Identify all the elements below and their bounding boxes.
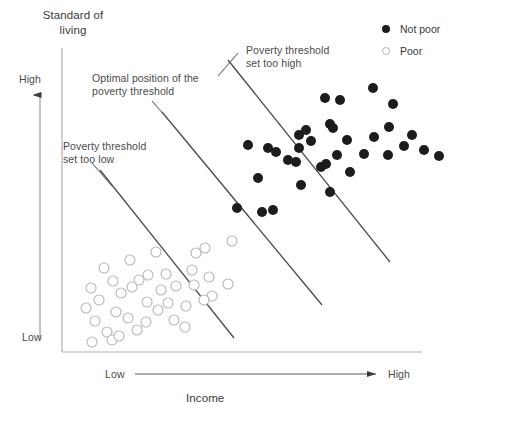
data-point-not-poor [384, 122, 394, 132]
data-point-not-poor [243, 140, 253, 150]
data-point-not-poor [407, 130, 417, 140]
data-point-not-poor [383, 150, 393, 160]
data-point-poor [189, 280, 199, 290]
data-point-not-poor [296, 180, 306, 190]
legend-label-not-poor: Not poor [400, 23, 440, 35]
data-point-not-poor [294, 130, 304, 140]
data-point-not-poor [325, 187, 335, 197]
data-point-poor [153, 305, 163, 315]
data-point-poor [116, 288, 126, 298]
data-point-poor [223, 279, 233, 289]
data-point-poor [142, 297, 152, 307]
data-point-poor [227, 236, 237, 246]
data-point-poor [180, 322, 190, 332]
data-point-poor [199, 295, 209, 305]
y-axis-high-label: High [19, 73, 41, 86]
data-point-poor [200, 243, 210, 253]
data-point-not-poor [232, 203, 242, 213]
data-point-not-poor [257, 207, 267, 217]
data-point-poor [132, 325, 142, 335]
data-point-not-poor [271, 147, 281, 157]
data-point-poor [111, 307, 121, 317]
filled-circle-icon [379, 25, 393, 33]
data-point-not-poor [434, 151, 444, 161]
data-points-poor [81, 236, 237, 347]
data-point-poor [114, 331, 124, 341]
open-circle-icon [379, 47, 393, 55]
data-point-not-poor [291, 157, 301, 167]
data-point-poor [141, 317, 151, 327]
y-axis-title: Standard of living [18, 8, 128, 38]
data-point-poor [171, 281, 181, 291]
data-point-not-poor [320, 93, 330, 103]
x-axis-title: Income [186, 392, 224, 405]
optimal-leader [152, 101, 172, 124]
data-point-poor [181, 301, 191, 311]
data-point-not-poor [345, 167, 355, 177]
too-high-leader [218, 53, 238, 76]
data-point-poor [127, 282, 137, 292]
data-point-poor [151, 247, 161, 257]
data-point-poor [94, 295, 104, 305]
data-point-not-poor [399, 141, 409, 151]
legend-label-poor: Poor [400, 45, 422, 57]
data-point-not-poor [316, 162, 326, 172]
y-axis-low-label: Low [22, 331, 42, 344]
data-point-not-poor [268, 205, 278, 215]
data-point-not-poor [294, 143, 304, 153]
too-low-leader [92, 163, 112, 186]
annotation-threshold-too-high: Poverty threshold set too high [246, 44, 329, 70]
data-point-poor [163, 298, 173, 308]
data-point-not-poor [335, 95, 345, 105]
data-point-not-poor [359, 149, 369, 159]
data-point-not-poor [332, 150, 342, 160]
data-point-poor [123, 313, 133, 323]
data-point-poor [99, 263, 109, 273]
data-point-poor [161, 269, 171, 279]
data-point-poor [90, 316, 100, 326]
data-point-poor [191, 248, 201, 258]
data-point-not-poor [419, 145, 429, 155]
chart-legend: Not poor Poor [379, 18, 499, 62]
data-point-poor [125, 255, 135, 265]
data-point-poor [156, 285, 166, 295]
data-point-poor [108, 276, 118, 286]
data-point-poor [143, 270, 153, 280]
data-point-poor [169, 315, 179, 325]
legend-item-not-poor: Not poor [379, 18, 499, 40]
data-point-poor [87, 337, 97, 347]
data-point-poor [187, 265, 197, 275]
data-point-not-poor [253, 173, 263, 183]
legend-item-poor: Poor [379, 40, 499, 62]
annotation-optimal-threshold: Optimal position of the poverty threshol… [92, 72, 199, 98]
data-point-not-poor [342, 135, 352, 145]
annotation-threshold-too-low: Poverty threshold set too low [63, 140, 146, 166]
x-axis-low-label: Low [105, 368, 125, 381]
data-point-not-poor [368, 83, 378, 93]
data-point-not-poor [328, 123, 338, 133]
threshold-line-set-too-high [228, 60, 390, 262]
data-point-not-poor [388, 99, 398, 109]
threshold-line-optimal-position [162, 112, 322, 305]
threshold-lines-group [100, 60, 390, 338]
data-point-poor [86, 283, 96, 293]
data-point-not-poor [306, 136, 316, 146]
x-axis-high-label: High [388, 368, 410, 381]
data-point-poor [204, 272, 214, 282]
data-point-not-poor [369, 132, 379, 142]
data-point-poor [81, 303, 91, 313]
